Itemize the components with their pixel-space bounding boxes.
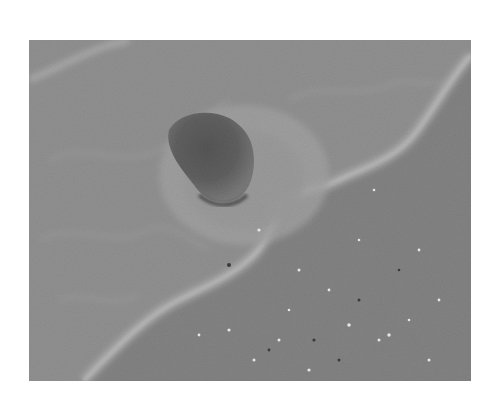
beach-photo [29, 40, 471, 381]
beach-scene [29, 40, 471, 381]
